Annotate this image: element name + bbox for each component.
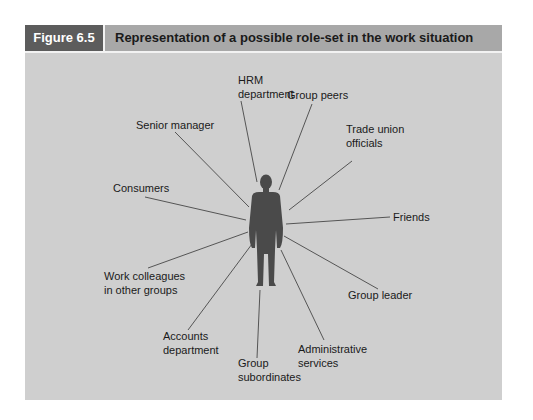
role-friends-line1: Friends — [393, 210, 430, 224]
role-hrm-line2: department — [238, 87, 294, 101]
role-work-colleagues: Work colleagues in other groups — [104, 269, 185, 297]
role-admin-line1: Administrative — [298, 342, 367, 356]
role-friends: Friends — [393, 210, 430, 224]
line-senior-manager — [175, 132, 249, 207]
role-work-colleagues-line1: Work colleagues — [104, 269, 185, 283]
role-accounts-line1: Accounts — [163, 329, 219, 343]
role-trade-union-line1: Trade union — [346, 122, 404, 136]
role-subordinates-line2: subordinates — [238, 370, 301, 384]
role-hrm-line1: HRM — [238, 73, 294, 87]
line-subordinates — [257, 290, 260, 358]
line-work-colleagues — [148, 232, 248, 268]
role-work-colleagues-line2: in other groups — [104, 283, 185, 297]
line-friends — [286, 217, 390, 224]
role-group-leader-line1: Group leader — [348, 288, 412, 302]
role-consumers: Consumers — [113, 181, 169, 195]
role-senior-manager-line1: Senior manager — [136, 118, 214, 132]
role-trade-union: Trade union officials — [346, 122, 404, 150]
line-trade-union — [289, 161, 352, 210]
line-accounts — [188, 244, 252, 330]
line-group-peers — [279, 104, 312, 190]
role-admin-line2: services — [298, 356, 367, 370]
role-trade-union-line2: officials — [346, 136, 404, 150]
line-hrm — [241, 101, 257, 182]
role-accounts-line2: department — [163, 343, 219, 357]
role-senior-manager: Senior manager — [136, 118, 214, 132]
line-group-leader — [284, 236, 378, 289]
role-group-peers: Group peers — [287, 88, 348, 102]
role-admin: Administrative services — [298, 342, 367, 370]
role-subordinates: Group subordinates — [238, 356, 301, 384]
role-consumers-line1: Consumers — [113, 181, 169, 195]
role-accounts: Accounts department — [163, 329, 219, 357]
role-group-leader: Group leader — [348, 288, 412, 302]
role-hrm: HRM department — [238, 73, 294, 101]
role-group-peers-line1: Group peers — [287, 88, 348, 102]
line-consumers — [145, 197, 246, 220]
person-silhouette-icon — [249, 175, 283, 287]
line-admin — [281, 250, 324, 340]
role-subordinates-line1: Group — [238, 356, 301, 370]
